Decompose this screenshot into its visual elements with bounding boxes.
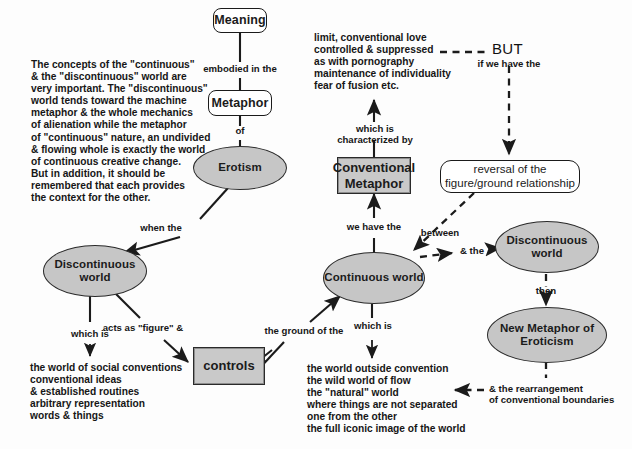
node-new-metaphor-eroticism[interactable]: New Metaphor of Eroticism bbox=[487, 307, 607, 363]
node-conventional-metaphor-label: Conventional Metaphor bbox=[333, 160, 415, 190]
link-label-if-we-have-the: if we have the bbox=[476, 58, 542, 69]
node-discontinuous-world-right[interactable]: Discontinuous world bbox=[495, 221, 599, 273]
edge-discontinuous-controls bbox=[116, 294, 140, 318]
link-label-between: between bbox=[414, 227, 466, 238]
node-meaning[interactable]: Meaning bbox=[213, 8, 267, 33]
link-label-and-the: & the bbox=[456, 245, 488, 256]
node-reversal-figure-ground-label: reversal of the figure/ground relationsh… bbox=[441, 163, 579, 190]
node-meaning-label: Meaning bbox=[214, 13, 265, 28]
link-label-which-is-center: which is bbox=[345, 320, 401, 331]
node-controls-label: controls bbox=[203, 358, 254, 373]
link-label-which-is-characterized-by: which is characterized by bbox=[327, 123, 423, 145]
node-reversal-figure-ground[interactable]: reversal of the figure/ground relationsh… bbox=[440, 160, 580, 193]
node-metaphor[interactable]: Metaphor bbox=[208, 90, 272, 116]
link-label-acts-as-figure: acts as "figure" & bbox=[93, 322, 193, 333]
node-controls[interactable]: controls bbox=[193, 347, 265, 385]
edge-reversal-between bbox=[414, 193, 474, 250]
text-conventional-metaphor-traits: limit, conventional love controlled & su… bbox=[314, 32, 470, 92]
text-discontinuous-world-traits: the world of social conventions conventi… bbox=[30, 362, 210, 422]
node-erotism-label: Erotism bbox=[218, 161, 262, 174]
node-metaphor-label: Metaphor bbox=[211, 96, 268, 111]
link-label-of: of bbox=[225, 125, 255, 136]
node-discontinuous-world-right-label: Discontinuous world bbox=[496, 234, 598, 261]
node-conventional-metaphor[interactable]: Conventional Metaphor bbox=[337, 157, 411, 194]
node-continuous-world[interactable]: Continuous world bbox=[323, 252, 425, 304]
node-discontinuous-world-left-label: Discontinuous world bbox=[44, 258, 146, 285]
link-label-when-the: when the bbox=[133, 222, 189, 233]
concept-map-canvas: Meaning Metaphor Erotism Discontinuous w… bbox=[0, 0, 632, 449]
edge-erotism-discontinuous-b bbox=[124, 237, 180, 253]
node-continuous-world-label: Continuous world bbox=[324, 271, 423, 284]
edge-continuous-andthe bbox=[420, 253, 452, 257]
text-continuous-world-traits: the world outside convention the wild wo… bbox=[307, 363, 487, 436]
link-label-we-have-the: we have the bbox=[340, 221, 408, 232]
node-new-metaphor-eroticism-label: New Metaphor of Eroticism bbox=[488, 322, 606, 349]
link-label-and-the-rearrangement: & the rearrangement of conventional boun… bbox=[489, 383, 623, 405]
link-label-but: BUT bbox=[492, 40, 523, 57]
link-label-the-ground-of-the: the ground of the bbox=[263, 325, 345, 336]
node-discontinuous-world-left[interactable]: Discontinuous world bbox=[43, 245, 147, 297]
node-erotism[interactable]: Erotism bbox=[193, 146, 287, 190]
text-commentary: The concepts of the "continuous" & the "… bbox=[31, 59, 217, 204]
link-label-embodied-in-the: embodied in the bbox=[190, 63, 290, 74]
link-label-then: then bbox=[530, 285, 562, 296]
edge-controls-continuous-main-b bbox=[310, 296, 340, 322]
edge-discontinuous-controls-b bbox=[164, 340, 188, 362]
